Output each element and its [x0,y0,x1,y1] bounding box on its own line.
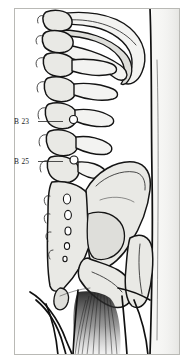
vertebra-l1 [43,53,75,77]
sacral-foramen-s2 [65,210,72,219]
vertebra-l2 [44,77,76,102]
vertebra-t12 [42,31,73,53]
sacral-foramen-s1 [63,194,70,204]
label-b25-text: B 25 [14,157,29,166]
sacral-foramen-s5 [63,256,67,261]
anatomy-illustration-svg: B 23 B 25 [0,0,189,363]
acupoint-marker-b25 [70,156,78,164]
label-b23-text: B 23 [14,117,29,126]
vertebra-t11 [43,10,72,31]
flank-gradient [150,8,180,355]
vertebra-l4 [46,130,78,156]
anatomical-figure: B 23 B 25 [0,0,189,363]
coccyx [54,288,69,310]
acupoint-marker-b23 [70,116,78,124]
sacral-foramen-s4 [64,243,69,250]
sacral-foramen-s3 [65,227,71,235]
